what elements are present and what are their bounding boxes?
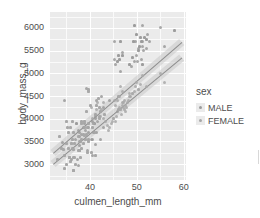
x-tick-40: 40	[75, 183, 105, 192]
data-point	[80, 147, 83, 150]
legend-label: MALE	[208, 103, 233, 113]
legend-label: FEMALE	[208, 116, 244, 126]
data-point	[71, 120, 74, 123]
data-point	[145, 47, 148, 50]
data-point	[159, 72, 162, 75]
data-point	[77, 164, 80, 167]
data-point	[93, 131, 96, 134]
data-point	[85, 110, 88, 113]
legend-key-swatch	[196, 103, 205, 112]
data-point	[63, 99, 66, 102]
data-point	[87, 122, 90, 125]
data-point	[78, 149, 81, 152]
data-point	[75, 122, 78, 125]
data-point	[137, 49, 140, 52]
data-point	[121, 54, 124, 57]
data-point	[128, 63, 131, 66]
data-point	[173, 29, 176, 32]
data-point	[97, 97, 100, 100]
data-point	[71, 138, 74, 141]
plot-panel	[50, 12, 186, 180]
data-point	[61, 141, 64, 144]
data-point	[72, 169, 75, 172]
data-point	[131, 92, 134, 95]
data-point	[159, 26, 162, 29]
data-point	[69, 126, 72, 129]
data-point	[69, 160, 72, 163]
data-point	[121, 104, 124, 107]
data-point	[148, 40, 151, 43]
data-point	[114, 104, 117, 107]
gridline-major-horizontal	[50, 28, 186, 29]
data-point	[108, 126, 111, 129]
data-point	[138, 45, 141, 48]
data-point	[87, 138, 90, 141]
data-point	[80, 138, 83, 141]
data-point	[91, 117, 94, 120]
data-point	[113, 99, 116, 102]
data-point	[74, 138, 77, 141]
data-point	[70, 142, 73, 145]
legend-key-swatch	[196, 116, 205, 125]
gridline-minor-horizontal	[50, 176, 186, 177]
data-point	[90, 138, 93, 141]
legend-item-male[interactable]: MALE	[196, 101, 258, 114]
edge-marker	[258, 150, 259, 164]
data-point	[132, 40, 135, 43]
data-point	[77, 129, 80, 132]
data-point	[142, 49, 145, 52]
data-point	[146, 33, 149, 36]
data-point	[65, 120, 68, 123]
y-axis-label: body_mass_g	[17, 24, 28, 164]
data-point	[87, 90, 90, 93]
data-point	[116, 99, 119, 102]
data-point	[115, 115, 118, 118]
data-point	[94, 117, 97, 120]
data-point	[73, 156, 76, 159]
legend-point-icon	[199, 119, 202, 122]
data-point	[95, 104, 98, 107]
data-point	[119, 70, 122, 73]
data-point	[139, 36, 142, 39]
data-point	[104, 120, 107, 123]
data-point	[79, 156, 82, 159]
data-point	[135, 54, 138, 57]
data-point	[94, 143, 97, 146]
data-point	[76, 158, 79, 161]
x-tick-50: 50	[122, 183, 152, 192]
scatter-plot-figure: 6000550050004500400035003000 405060 culm…	[0, 0, 260, 218]
data-point	[133, 60, 136, 63]
data-point	[63, 167, 66, 170]
data-point	[114, 120, 117, 123]
data-point	[117, 54, 120, 57]
x-tick-60: 60	[169, 183, 199, 192]
data-point	[131, 56, 134, 59]
data-point	[74, 163, 77, 166]
data-point	[113, 40, 116, 43]
data-point	[92, 122, 95, 125]
data-point	[108, 99, 111, 102]
x-axis-label: culmen_length_mm	[50, 196, 186, 207]
data-point	[71, 147, 74, 150]
gridline-minor-horizontal	[50, 85, 186, 86]
data-point	[136, 60, 139, 63]
data-point	[127, 99, 130, 102]
data-point	[100, 95, 103, 98]
data-point	[68, 156, 71, 159]
data-point	[163, 45, 166, 48]
data-point	[102, 126, 105, 129]
data-point	[60, 147, 63, 150]
data-point	[99, 138, 102, 141]
data-point	[58, 135, 61, 138]
data-point	[120, 113, 123, 116]
legend-item-female[interactable]: FEMALE	[196, 114, 258, 127]
data-point	[83, 120, 86, 123]
gridline-minor-horizontal	[50, 39, 186, 40]
data-point	[94, 113, 97, 116]
data-point	[107, 129, 110, 132]
data-point	[119, 40, 122, 43]
data-point	[95, 108, 98, 111]
data-point	[63, 154, 66, 157]
data-point	[86, 151, 89, 154]
data-point	[65, 163, 68, 166]
